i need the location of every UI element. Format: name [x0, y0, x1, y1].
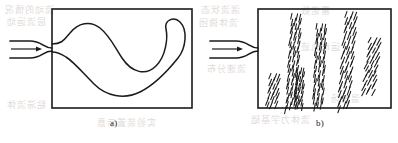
turbulent-dye-dash	[286, 83, 287, 89]
turbulent-dye-dash	[319, 42, 320, 50]
turbulent-dye-dash	[315, 48, 316, 56]
turbulent-dye-dash	[293, 42, 295, 49]
turbulent-dye-dash	[287, 75, 289, 82]
turbulent-dye-dash	[341, 51, 344, 59]
turbulent-dye-dash	[350, 23, 352, 29]
turbulent-dye-dash	[269, 73, 271, 78]
turbulent-dye-dash	[324, 51, 325, 59]
turbulent-dye-dash	[291, 13, 292, 19]
turbulent-dye-dash	[267, 102, 269, 107]
turbulent-dye-dash	[291, 19, 293, 26]
panel-a-laminar-dye-filament	[52, 19, 185, 96]
turbulent-dye-dash	[320, 61, 321, 67]
turbulent-dye-dash	[319, 28, 320, 36]
turbulent-dye-dash	[317, 29, 318, 36]
turbulent-dye-dash	[321, 38, 322, 45]
turbulent-dye-dash	[342, 71, 344, 77]
panel-label-a: a)	[110, 118, 117, 128]
turbulent-dye-dash	[314, 103, 315, 111]
turbulent-dye-dash	[322, 98, 323, 104]
turbulent-dye-dash	[272, 97, 274, 102]
turbulent-dye-dash	[323, 57, 324, 63]
turbulent-dye-dash	[372, 84, 375, 89]
turbulent-dye-dash	[290, 28, 291, 34]
turbulent-dye-dash	[321, 34, 322, 40]
turbulent-dye-dash	[348, 16, 351, 24]
turbulent-dye-dash	[300, 80, 301, 86]
turbulent-dye-dash	[318, 79, 319, 86]
turbulent-dye-dash	[319, 57, 320, 65]
turbulent-dye-dash	[316, 52, 317, 58]
turbulent-dye-dash	[371, 61, 374, 66]
turbulent-dye-dash	[321, 24, 322, 31]
turbulent-dye-dash	[316, 38, 317, 44]
turbulent-dye-dash	[346, 56, 349, 63]
turbulent-dye-dash	[324, 38, 325, 46]
turbulent-dye-dash	[324, 65, 325, 73]
turbulent-dye-dash	[368, 37, 371, 42]
turbulent-dye-dash	[322, 70, 323, 76]
turbulent-dye-dash	[299, 99, 300, 104]
turbulent-dye-dash	[303, 84, 304, 89]
turbulent-dye-dash	[318, 94, 319, 101]
turbulent-dye-dash	[343, 42, 345, 48]
turbulent-dye-dash	[297, 47, 298, 53]
panel-label-b: b)	[316, 118, 324, 128]
turbulent-dye-dash	[298, 37, 300, 44]
turbulent-dye-dash	[300, 68, 301, 74]
turbulent-dye-dash	[319, 71, 320, 79]
turbulent-dye-dash	[314, 75, 315, 83]
panel-b-nozzle-lower-lip	[210, 51, 258, 58]
turbulent-dye-dash	[300, 77, 301, 82]
turbulent-dye-dash	[290, 46, 292, 53]
turbulent-dye-dash	[349, 76, 351, 82]
turbulent-dye-dash	[295, 24, 296, 30]
turbulent-dye-dash	[316, 42, 317, 49]
turbulent-dye-dash	[300, 18, 301, 24]
turbulent-dye-dash	[295, 37, 296, 43]
turbulent-dye-dash	[367, 52, 370, 57]
turbulent-dye-dash	[301, 88, 302, 94]
turbulent-dye-dash	[323, 75, 324, 82]
turbulent-dye-dash	[323, 61, 324, 68]
turbulent-dye-dash	[298, 23, 300, 30]
turbulent-dye-dash	[299, 87, 300, 92]
turbulent-dye-dash	[318, 65, 319, 72]
turbulent-dye-dash	[323, 88, 324, 95]
turbulent-dye-dash	[316, 56, 317, 63]
turbulent-dye-dash	[285, 106, 287, 114]
turbulent-dye-dash	[295, 51, 296, 57]
turbulent-dye-dash	[273, 84, 275, 89]
turbulent-dye-dash	[325, 28, 326, 34]
turbulent-dye-dash	[291, 98, 293, 105]
turbulent-dye-dash	[318, 75, 319, 81]
turbulent-dye-dash	[296, 73, 297, 79]
panel-a-flow-direction-arrowhead	[36, 46, 42, 51]
turbulent-dye-dash	[322, 84, 323, 90]
turbulent-dye-dash	[319, 52, 320, 59]
turbulent-dye-dash	[292, 55, 294, 62]
turbulent-dye-dash	[286, 97, 287, 103]
turbulent-dye-dash	[304, 72, 305, 77]
turbulent-dye-dash	[287, 87, 289, 94]
turbulent-dye-dash	[363, 74, 367, 81]
panel-b-streak-cluster-4	[338, 11, 358, 112]
turbulent-dye-dash	[289, 69, 290, 75]
turbulent-dye-dash	[367, 79, 370, 85]
turbulent-dye-dash	[323, 47, 324, 54]
turbulent-dye-dash	[353, 21, 356, 28]
turbulent-dye-dash	[301, 96, 302, 101]
turbulent-dye-dash	[366, 89, 369, 94]
turbulent-dye-dash	[316, 23, 317, 29]
turbulent-dye-dash	[297, 60, 298, 66]
turbulent-dye-dash	[297, 51, 299, 58]
turbulent-dye-dash	[321, 80, 322, 88]
turbulent-dye-dash	[292, 84, 294, 91]
turbulent-dye-dash	[349, 36, 351, 42]
turbulent-dye-dash	[296, 28, 298, 35]
turbulent-dye-dash	[297, 65, 299, 72]
turbulent-dye-dash	[343, 96, 345, 102]
turbulent-dye-dash	[294, 18, 296, 26]
turbulent-dye-dash	[316, 98, 317, 106]
turbulent-dye-dash	[292, 69, 294, 76]
